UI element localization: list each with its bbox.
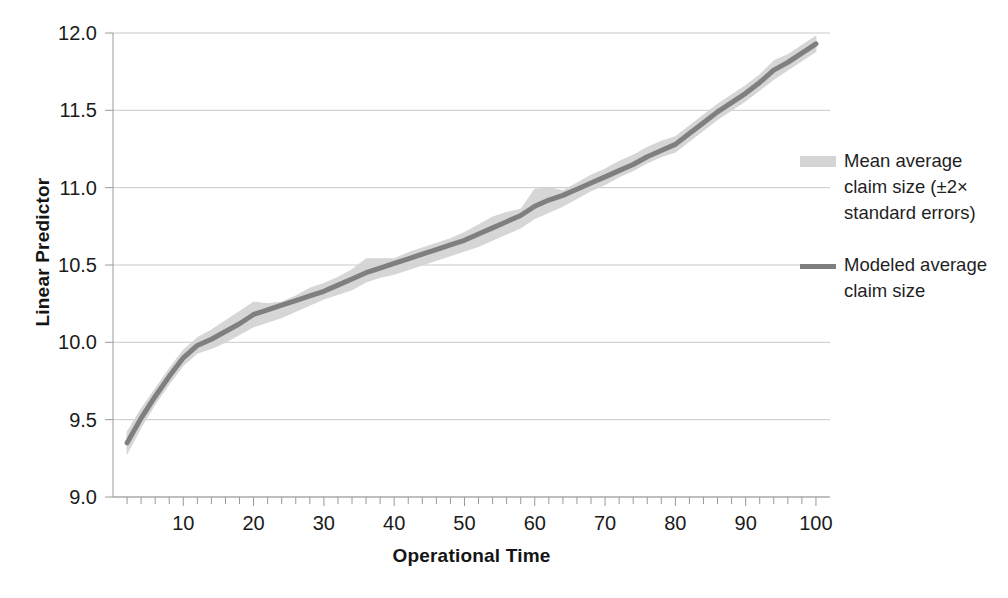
legend-entry-line: Modeled average claim size	[800, 252, 1008, 304]
y-axis-title: Linear Predictor	[32, 127, 54, 377]
svg-text:40: 40	[383, 512, 405, 534]
x-axis-ticks	[105, 33, 816, 506]
svg-text:50: 50	[453, 512, 475, 534]
svg-text:90: 90	[735, 512, 757, 534]
svg-text:70: 70	[594, 512, 616, 534]
confidence-band-series	[127, 36, 816, 454]
svg-text:10.0: 10.0	[58, 331, 97, 353]
legend-swatch-line	[800, 260, 836, 269]
svg-text:100: 100	[799, 512, 832, 534]
y-axis-tick-labels: 9.09.510.010.511.011.512.0	[58, 22, 97, 508]
svg-text:9.5: 9.5	[69, 409, 97, 431]
svg-text:11.5: 11.5	[60, 99, 97, 121]
svg-text:80: 80	[664, 512, 686, 534]
svg-text:9.0: 9.0	[69, 486, 97, 508]
legend-swatch-band	[800, 156, 836, 167]
chart-container: 9.09.510.010.511.011.512.0 1020304050607…	[0, 0, 1008, 598]
x-axis-title: Operational Time	[113, 545, 830, 567]
chart-legend: Mean average claim size (±2× standard er…	[800, 148, 1008, 330]
x-axis-tick-labels: 102030405060708090100	[172, 512, 832, 534]
svg-text:10.5: 10.5	[58, 254, 97, 276]
legend-label-line: Modeled average claim size	[844, 252, 1008, 304]
svg-text:20: 20	[242, 512, 264, 534]
legend-entry-band: Mean average claim size (±2× standard er…	[800, 148, 1008, 226]
svg-text:11.0: 11.0	[60, 177, 97, 199]
svg-text:12.0: 12.0	[58, 22, 97, 44]
svg-text:60: 60	[524, 512, 546, 534]
svg-text:10: 10	[172, 512, 194, 534]
svg-text:30: 30	[313, 512, 335, 534]
legend-label-band: Mean average claim size (±2× standard er…	[844, 148, 1008, 226]
